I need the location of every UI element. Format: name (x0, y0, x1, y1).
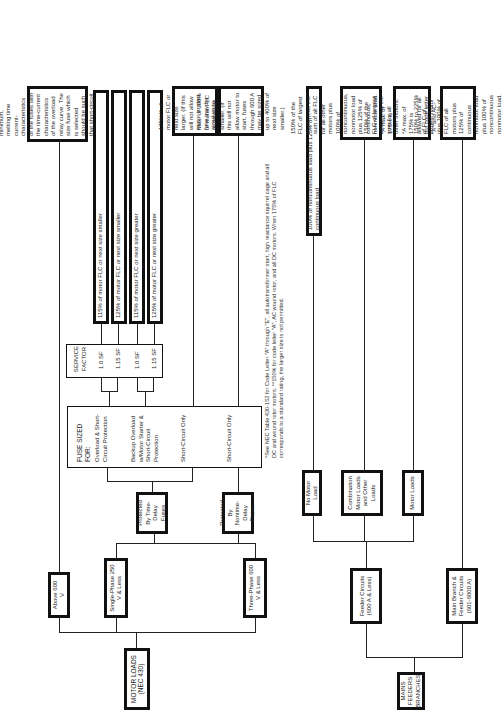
fuse-sized-for-title: FUSE SIZED FOR: (76, 407, 91, 462)
fuse-item: Short-Circuit Only (180, 412, 188, 462)
time-delay-fuses-box: Protected By Time-Delay Fuses (136, 492, 168, 534)
feeder-circuits-box: Feeder Circuits (600 A & Less) (350, 568, 382, 624)
main-branch-box: Main Branch & Feeder Circuits (601-6000 … (446, 568, 478, 624)
motor-loads-root: MOTOR LOADS (NEC 430) (124, 648, 150, 710)
three-phase-box: Three-Phase 600 V & Less (243, 558, 267, 618)
sf-item: 1.15 SF (115, 348, 123, 369)
short-circuit-ntd-box: Max. of 300% of motor FLC or next size s… (218, 86, 264, 136)
fuse-item: Short-Circuit Only (226, 412, 234, 462)
fuse-sized-for-box: FUSE SIZED FOR: Overload & Short-Circuit… (67, 406, 262, 468)
main-branch-result-box: 150% to 225% of FLC of largest motor plu… (440, 86, 476, 140)
sf-item: 1.0 SF (98, 351, 106, 369)
sf-item: 1.0 SF (134, 351, 142, 369)
fuse-item: Backup Overload w/Motor Starter & Short-… (130, 412, 160, 462)
no-motor-load-box: No Motor Load (302, 470, 322, 516)
sf-result-box: 125% of motor FLC or next size smaller (111, 90, 127, 324)
service-factor-box: SERVICE FACTOR 1.0 SF 1.15 SF 1.0 SF 1.1… (66, 344, 163, 378)
nontime-delay-fuses-box: Protected By Nontime-Delay Fuses (222, 492, 254, 534)
footnote: *See NEC Table 430-152 for Code Letter "… (264, 158, 285, 458)
compare-box: Compare the minimum, melting time curren… (27, 86, 88, 142)
mains-root: MAINS FEEDERS BRANCHES (397, 672, 425, 710)
combination-loads-box: Combination Motor Loads and Other Loads (341, 470, 383, 516)
fuse-item: Overload & Short-Circuit Protection (94, 412, 109, 462)
sf-item: 1.15 SF (151, 348, 159, 369)
sf-result-box: 115% of motor FLC or next size smaller (93, 90, 109, 324)
flowchart-diagram: MOTOR LOADS (NEC 430) Above 600 V Single… (0, 0, 504, 718)
motor-loads-box: Motor Loads (402, 470, 424, 516)
sf-result-box: 115% of motor FLC or next size greater (129, 90, 145, 324)
service-factor-title: SERVICE FACTOR (73, 345, 88, 373)
single-phase-box: Single-Phase 250 V & Less (104, 558, 128, 618)
above-600v-box: Above 600 V (48, 572, 70, 618)
